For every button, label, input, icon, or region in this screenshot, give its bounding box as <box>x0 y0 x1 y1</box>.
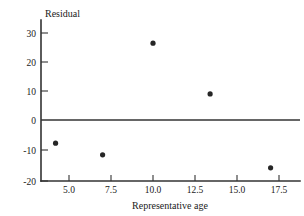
y-tick-label: 30 <box>27 29 37 39</box>
data-point <box>100 152 105 157</box>
y-tick-label: 0 <box>31 116 36 126</box>
data-point <box>208 91 213 96</box>
x-tick-label: 12.5 <box>187 185 204 195</box>
residual-scatter-chart: 30 20 10 0 -10 -20 5.0 7.5 10.0 12.5 15.… <box>0 0 304 216</box>
y-axis-ticks: 30 20 10 0 -10 -20 <box>23 29 48 187</box>
y-tick-label: -20 <box>23 177 36 187</box>
y-tick-label: -10 <box>23 146 36 156</box>
y-tick-label: 10 <box>27 87 37 97</box>
x-tick-label: 17.5 <box>271 185 288 195</box>
x-axis-ticks: 5.0 7.5 10.0 12.5 15.0 17.5 <box>63 175 288 195</box>
x-tick-label: 5.0 <box>63 185 75 195</box>
data-point <box>150 41 155 46</box>
data-point <box>53 141 58 146</box>
y-tick-label: 20 <box>27 58 37 68</box>
x-tick-label: 10.0 <box>145 185 162 195</box>
y-axis-title: Residual <box>45 8 80 19</box>
data-points-layer <box>53 41 273 171</box>
x-axis-title: Representative age <box>132 200 208 211</box>
plot-canvas: 30 20 10 0 -10 -20 5.0 7.5 10.0 12.5 15.… <box>0 0 304 216</box>
x-tick-label: 7.5 <box>105 185 117 195</box>
data-point <box>268 165 273 170</box>
x-tick-label: 15.0 <box>229 185 246 195</box>
